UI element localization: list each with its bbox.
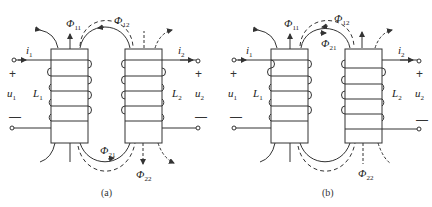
- current-i1-label: i1: [26, 45, 33, 59]
- u1-minus-sign: —: [230, 111, 242, 123]
- flux-11-label: Φ11: [284, 18, 299, 32]
- voltage-u2-label: u2: [415, 88, 424, 102]
- caption-b: (b): [322, 188, 334, 198]
- u1-minus-sign: —: [9, 111, 21, 123]
- voltage-u2-label: u2: [195, 88, 204, 102]
- u1-plus-sign: +: [9, 68, 16, 80]
- flux11-left-line: [40, 30, 58, 48]
- flux-22-label: Φ22: [358, 168, 373, 182]
- flux-12-label: Φ12: [334, 13, 349, 27]
- current-i2-label: i2: [398, 45, 405, 59]
- inductor-l1-label: L1: [253, 88, 263, 102]
- current-i2-label: i2: [178, 45, 185, 59]
- voltage-u1-label: u1: [7, 88, 16, 102]
- u2-plus-sign: +: [195, 68, 202, 80]
- coil1-core: [271, 49, 308, 143]
- inductor-l2-label: L2: [392, 88, 402, 102]
- voltage-u1-label: u1: [228, 88, 237, 102]
- flux-11-label: Φ11: [66, 18, 81, 32]
- coil2-windings: [122, 60, 166, 121]
- inductor-l2-label: L2: [172, 88, 182, 102]
- flux-arc-solid-top: [80, 27, 130, 48]
- coil2-core: [125, 49, 162, 143]
- flux-21-label: Φ21: [321, 38, 336, 52]
- u2-plus-sign: +: [416, 68, 423, 80]
- u2-minus-sign: —: [195, 111, 207, 123]
- flux-12-label: Φ12: [114, 15, 129, 29]
- coil1-windings: [48, 60, 92, 121]
- u1-plus-sign: +: [230, 68, 237, 80]
- inductor-l1-label: L1: [33, 88, 43, 102]
- coil1-windings: [268, 60, 312, 121]
- coil2-windings: [342, 60, 386, 129]
- caption-a: (a): [101, 188, 112, 198]
- coil1-core: [51, 49, 88, 143]
- current-i1-label: i1: [246, 45, 253, 59]
- u2-minus-sign: —: [416, 114, 428, 126]
- flux-21-label: Φ21: [100, 145, 115, 159]
- flux-22-label: Φ22: [136, 169, 151, 183]
